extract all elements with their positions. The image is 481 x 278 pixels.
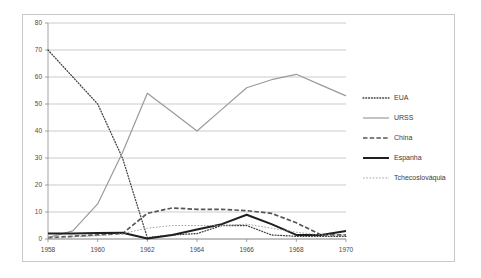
legend-label-espanha: Espanha [394, 154, 422, 162]
x-tick-label: 1966 [239, 246, 254, 253]
x-axis-ticks: 1958196019621964196619681970 [41, 239, 354, 253]
x-tick-label: 1960 [90, 246, 105, 253]
y-tick-label: 60 [35, 73, 43, 80]
x-tick-label: 1968 [289, 246, 304, 253]
line-chart: 01020304050607080 1958196019621964196619… [23, 15, 456, 263]
x-tick-label: 1962 [140, 246, 155, 253]
series-group [48, 50, 346, 238]
x-tick-label: 1964 [190, 246, 205, 253]
legend-label-tchecoslovquia: Tchecoslováquia [394, 174, 446, 182]
legend-label-china: China [394, 134, 412, 141]
chart-legend: EUAURSSChinaEspanhaTchecoslováquia [363, 94, 446, 182]
chart-figure: 01020304050607080 1958196019621964196619… [22, 14, 455, 262]
y-tick-label: 70 [35, 46, 43, 53]
y-tick-label: 50 [35, 100, 43, 107]
legend-label-urss: URSS [394, 114, 414, 121]
y-tick-label: 0 [38, 235, 42, 242]
series-line-espanha [48, 215, 346, 239]
y-axis-ticks: 01020304050607080 [35, 19, 48, 242]
x-tick-label: 1958 [41, 246, 56, 253]
series-line-urss [48, 74, 346, 237]
y-tick-label: 20 [35, 181, 43, 188]
y-tick-label: 40 [35, 127, 43, 134]
x-tick-label: 1970 [339, 246, 354, 253]
y-tick-label: 30 [35, 154, 43, 161]
y-tick-label: 80 [35, 19, 43, 26]
legend-label-eua: EUA [394, 94, 409, 101]
y-tick-label: 10 [35, 208, 43, 215]
